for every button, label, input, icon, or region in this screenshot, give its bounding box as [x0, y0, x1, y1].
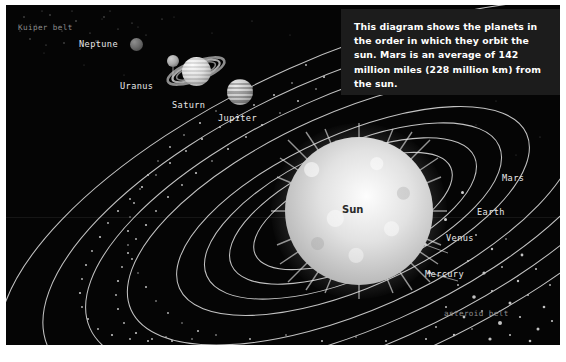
caption-box: This diagram shows the planets in the or… [341, 9, 560, 95]
planet-dot-earth [444, 218, 447, 221]
mars-label: Mars [502, 173, 524, 183]
earth-label: Earth [477, 207, 505, 217]
space-canvas: Sun Kuiper belt Neptune Uranus Saturn Ju… [6, 5, 560, 345]
jupiter-label: Jupiter [218, 113, 257, 123]
venus-label: Venus [446, 233, 474, 243]
mercury-label: Mercury [425, 269, 464, 279]
asteroid-belt-label: asteroid belt [444, 309, 509, 318]
saturn-label: Saturn [172, 100, 205, 110]
sun-label: Sun [342, 204, 363, 215]
neptune-label: Neptune [79, 39, 118, 49]
planet-uranus [167, 55, 179, 67]
kuiper-belt-label: Kuiper belt [18, 23, 73, 32]
solar-system-diagram: Sun Kuiper belt Neptune Uranus Saturn Ju… [0, 0, 566, 362]
planet-dot-mars [461, 191, 464, 194]
caption-text: This diagram shows the planets in the or… [354, 20, 548, 91]
uranus-label: Uranus [120, 81, 153, 91]
planet-dot-venus [424, 243, 427, 246]
planet-neptune [130, 38, 143, 51]
planet-jupiter [227, 79, 253, 105]
planet-saturn [182, 57, 211, 86]
